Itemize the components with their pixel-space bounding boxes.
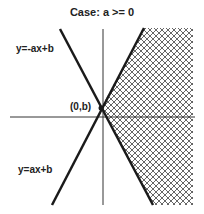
intercept-point [99,106,104,111]
label-upper-line: y=-ax+b [16,43,54,54]
label-lower-line: y=ax+b [18,164,52,175]
plot-canvas [0,0,204,214]
label-intercept: (0,b) [70,101,91,112]
diagram: Case: a >= 0 y=-ax+b y=ax+b (0,b) [0,0,204,214]
